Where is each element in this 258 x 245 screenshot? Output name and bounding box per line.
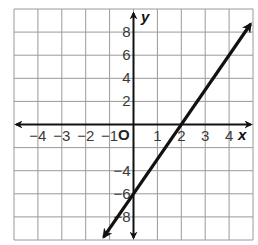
coordinate-plane: −4−3−2−112348642−4−6−8 x y O (0, 0, 258, 245)
y-tick-label: 6 (122, 46, 130, 63)
y-tick-label: 4 (122, 69, 130, 86)
x-tick-label: 1 (153, 127, 161, 144)
x-tick-label: −1 (101, 127, 118, 144)
x-tick-label: 4 (225, 127, 233, 144)
origin-label: O (118, 126, 130, 143)
x-tick-label: 3 (201, 127, 209, 144)
y-axis-label: y (140, 8, 150, 25)
y-tick-label: −4 (113, 162, 130, 179)
y-tick-label: 2 (122, 92, 130, 109)
axes (16, 13, 251, 238)
y-tick-label: 8 (122, 23, 130, 40)
x-tick-label: −4 (29, 127, 46, 144)
x-axis-label: x (237, 126, 247, 143)
x-tick-label: −2 (77, 127, 94, 144)
x-tick-label: −3 (53, 127, 70, 144)
